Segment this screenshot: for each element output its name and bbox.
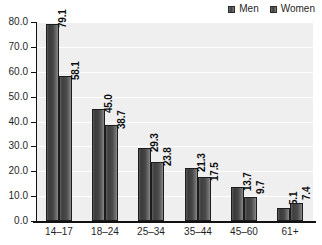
bar-value-label: 38.7 — [117, 110, 127, 129]
legend-label-women: Women — [281, 4, 315, 14]
gridline — [36, 22, 313, 23]
y-axis-tick — [31, 122, 36, 123]
y-axis-tick — [31, 171, 36, 172]
bar-men-2: 29.3 — [138, 148, 151, 221]
plot-area: 79.158.145.038.729.323.821.317.513.79.75… — [36, 22, 313, 221]
gridline — [36, 122, 313, 123]
y-axis-label: 50.0 — [0, 92, 28, 102]
x-axis-label: 61+ — [260, 226, 320, 237]
bar-value-label: 79.1 — [58, 9, 68, 28]
y-axis-tick — [31, 221, 36, 222]
y-axis-tick — [31, 97, 36, 98]
bar-women-2: 23.8 — [151, 162, 164, 221]
bar-value-label: 21.3 — [197, 153, 207, 172]
y-axis-tick — [31, 47, 36, 48]
bar-value-label: 9.7 — [256, 181, 266, 194]
y-axis-label: 70.0 — [0, 42, 28, 52]
bar-women-3: 17.5 — [198, 177, 211, 221]
y-axis-label: 20.0 — [0, 166, 28, 176]
y-axis-label: 30.0 — [0, 141, 28, 151]
y-axis-tick — [31, 72, 36, 73]
y-axis-tick — [31, 146, 36, 147]
bar-value-label: 58.1 — [71, 61, 81, 80]
legend-item-men: Men — [228, 4, 258, 14]
y-axis-label: 60.0 — [0, 67, 28, 77]
y-axis-label: 40.0 — [0, 117, 28, 127]
bar-women-5: 7.4 — [290, 203, 303, 221]
gridline — [36, 97, 313, 98]
legend-swatch-women-icon — [270, 6, 277, 13]
bar-women-0: 58.1 — [59, 76, 72, 221]
y-axis-tick — [31, 22, 36, 23]
bar-men-0: 79.1 — [46, 24, 59, 221]
gridline — [36, 196, 313, 197]
y-axis-tick — [31, 196, 36, 197]
bar-men-5: 5.1 — [277, 208, 290, 221]
bar-value-label: 29.3 — [150, 133, 160, 152]
legend-swatch-men-icon — [228, 6, 235, 13]
legend-item-women: Women — [270, 4, 315, 14]
bar-men-1: 45.0 — [92, 109, 105, 221]
chart-legend: Men Women — [228, 2, 315, 16]
bar-women-1: 38.7 — [105, 125, 118, 221]
bar-men-3: 21.3 — [185, 168, 198, 221]
bar-value-label: 7.4 — [302, 187, 312, 200]
y-axis-label: 10.0 — [0, 191, 28, 201]
legend-label-men: Men — [239, 4, 258, 14]
bar-value-label: 13.7 — [243, 172, 253, 191]
gridline — [36, 171, 313, 172]
bar-chart: Men Women 79.158.145.038.729.323.821.317… — [0, 0, 322, 245]
y-axis-line — [36, 22, 37, 222]
bar-value-label: 45.0 — [104, 94, 114, 113]
y-axis-label: 0.0 — [0, 216, 28, 226]
bar-value-label: 17.5 — [210, 162, 220, 181]
x-axis-line — [33, 221, 316, 223]
bar-men-4: 13.7 — [231, 187, 244, 221]
bar-value-label: 23.8 — [163, 147, 173, 166]
y-axis-label: 80.0 — [0, 17, 28, 27]
gridline — [36, 47, 313, 48]
bar-women-4: 9.7 — [244, 197, 257, 221]
gridline — [36, 146, 313, 147]
